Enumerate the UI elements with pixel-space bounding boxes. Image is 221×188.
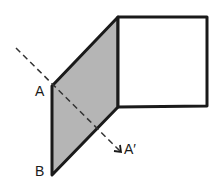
label-a: A (35, 84, 44, 98)
white-square (118, 17, 207, 107)
label-b: B (35, 164, 44, 178)
shaded-parallelogram (52, 17, 118, 175)
label-a-prime: A′ (124, 142, 136, 156)
figure (0, 0, 221, 188)
diagram-canvas: A A′ B (0, 0, 221, 188)
